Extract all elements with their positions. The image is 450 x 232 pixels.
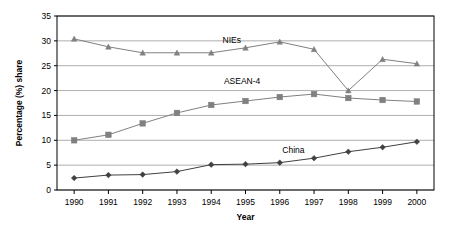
series-point-asean-4-1991 [106, 132, 112, 138]
y-tick-label-25: 25 [42, 61, 52, 71]
series-point-asean-4-1997 [311, 91, 317, 97]
x-tick-label-1993: 1993 [167, 197, 186, 207]
series-point-asean-4-1993 [174, 110, 180, 116]
y-tick-label-5: 5 [46, 160, 51, 170]
y-tick-label-10: 10 [42, 135, 52, 145]
series-point-asean-4-2000 [414, 99, 420, 105]
x-tick-label-1999: 1999 [373, 197, 392, 207]
y-axis-title: Percentage (%) share [14, 60, 24, 147]
chart-container: 0510152025303519901991199219931994199519… [0, 0, 450, 232]
series-point-asean-4-1995 [243, 98, 249, 104]
y-tick-label-0: 0 [46, 185, 51, 195]
series-point-asean-4-1992 [140, 121, 146, 127]
y-tick-label-30: 30 [42, 36, 52, 46]
x-tick-label-1990: 1990 [65, 197, 84, 207]
x-tick-label-1997: 1997 [305, 197, 324, 207]
series-point-asean-4-1994 [208, 102, 214, 108]
series-label-nies: NIEs [223, 35, 241, 45]
x-tick-label-1994: 1994 [202, 197, 221, 207]
x-tick-label-2000: 2000 [407, 197, 426, 207]
series-point-asean-4-1990 [71, 137, 77, 143]
series-point-asean-4-1998 [346, 95, 352, 101]
y-tick-label-35: 35 [42, 11, 52, 21]
x-tick-label-1998: 1998 [339, 197, 358, 207]
y-tick-label-15: 15 [42, 110, 52, 120]
x-axis-title: Year [237, 212, 256, 222]
series-point-asean-4-1999 [380, 97, 386, 103]
series-label-asean-4: ASEAN-4 [224, 76, 261, 86]
y-tick-label-20: 20 [42, 86, 52, 96]
x-tick-label-1995: 1995 [236, 197, 255, 207]
x-tick-label-1996: 1996 [270, 197, 289, 207]
line-chart: 0510152025303519901991199219931994199519… [0, 0, 450, 232]
series-point-asean-4-1996 [277, 94, 283, 100]
x-tick-label-1992: 1992 [133, 197, 152, 207]
x-tick-label-1991: 1991 [99, 197, 118, 207]
series-label-china: China [282, 145, 304, 155]
